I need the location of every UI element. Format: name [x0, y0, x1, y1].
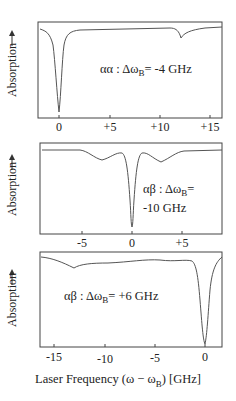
panel-1-annotation: αα : ΔωB= -4 GHz	[100, 62, 192, 81]
panel-2-tick: +5	[176, 236, 189, 251]
panel-3-tick: -10	[97, 352, 113, 367]
panel-2-plot	[40, 143, 222, 234]
panel-3-tick: 0	[202, 350, 208, 365]
x-axis-label: Laser Frequency (ω − ωB) [GHz]	[0, 372, 236, 389]
panel-1-tick: +10	[151, 120, 170, 135]
y-axis-label-panel-3: Absorption	[2, 252, 22, 347]
y-axis-label-panel-2: Absorption	[2, 143, 22, 234]
panel-3-annotation: αβ : ΔωB= +6 GHz	[64, 289, 158, 308]
panel-2-tick: 0	[129, 236, 135, 251]
panel-2-tick: -5	[77, 236, 87, 251]
chart-plots	[0, 0, 236, 401]
y-axis-label-text: Absorption	[5, 273, 20, 327]
panel-3-tick: -5	[150, 351, 160, 366]
panel-2-annotation: αβ : ΔωB= -10 GHz	[143, 182, 194, 216]
y-axis-label-text: Absorption	[5, 162, 20, 216]
panel-3-tick: -15	[46, 350, 62, 365]
panel-1-tick: +5	[104, 120, 117, 135]
panel-1-tick: 0	[56, 120, 62, 135]
panel-1-tick: +15	[201, 120, 220, 135]
